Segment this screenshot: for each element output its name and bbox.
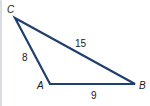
vertex-label-b: B bbox=[139, 80, 146, 91]
side-label-ab: 9 bbox=[91, 90, 97, 101]
vertex-label-c: C bbox=[7, 4, 15, 15]
vertex-label-a: A bbox=[36, 80, 44, 91]
side-label-ca: 8 bbox=[22, 52, 28, 63]
triangle-shape bbox=[15, 18, 135, 84]
triangle-diagram: C A B 8 15 9 bbox=[0, 0, 150, 106]
side-label-cb: 15 bbox=[75, 38, 87, 49]
